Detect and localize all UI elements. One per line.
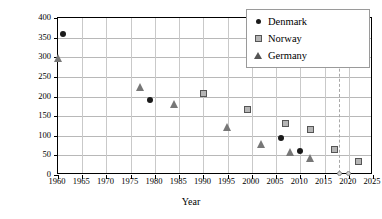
gridline-x-1985 [179,18,180,173]
y-tick-label-50: 50 [25,149,51,159]
gridline-x-1975 [131,18,132,173]
data-point-germany-2018 [337,171,342,176]
data-point-norway-1990 [200,90,207,97]
data-point-germany-2002 [257,140,265,148]
x-axis-title: Year [0,196,382,207]
y-tick-label-350: 350 [25,32,51,42]
y-tick-label-300: 300 [25,51,51,61]
x-tick-2005 [276,175,277,179]
legend-label: Denmark [268,16,307,27]
data-point-denmark-2010 [297,148,303,154]
legend-label: Norway [268,33,302,44]
x-tick-1990 [203,175,204,179]
x-tick-2025 [373,175,374,179]
y-tick-0 [54,175,58,176]
y-tick-label-100: 100 [25,130,51,140]
legend-marker-glyph [256,19,261,24]
data-point-germany-1977 [136,83,144,91]
x-tick-label-2025: 2025 [352,176,382,186]
legend-marker-glyph [255,35,262,42]
data-point-germany-2008 [286,148,294,156]
data-point-germany-1995 [223,123,231,131]
x-tick-1965 [82,175,83,179]
gridline-x-1995 [228,18,229,173]
x-tick-1970 [106,175,107,179]
data-point-denmark-1979 [147,97,153,103]
y-tick-label-200: 200 [25,91,51,101]
y-tick-400 [54,18,58,19]
data-point-germany-1984 [170,100,178,108]
x-tick-2015 [325,175,326,179]
y-axis-title-line2: kWh/m2a [8,0,21,28]
y-tick-150 [54,116,58,117]
data-point-norway-2007 [282,120,289,127]
data-point-norway-2012 [307,126,314,133]
legend-marker-glyph [254,52,262,59]
legend-marker-filled-circle-icon [252,19,264,24]
data-point-norway-2017 [331,146,338,153]
legend-item-norway[interactable]: Norway [252,30,365,47]
chart-figure: Max energy consumption kWh/m2a 050100150… [0,0,382,219]
legend-marker-gray-square-icon [252,35,264,42]
x-tick-1975 [131,175,132,179]
data-point-norway-1999 [244,106,251,113]
x-tick-1995 [228,175,229,179]
x-tick-2010 [300,175,301,179]
data-point-denmark-2006 [278,135,284,141]
gridline-x-1970 [106,18,107,173]
legend-marker-gray-triangle-icon [252,52,264,59]
y-tick-label-250: 250 [25,71,51,81]
x-tick-1985 [179,175,180,179]
y-tick-label-400: 400 [25,12,51,22]
chart-legend: DenmarkNorwayGermany [246,9,370,68]
y-tick-label-150: 150 [25,110,51,120]
data-point-denmark-1961 [60,31,66,37]
y-tick-50 [54,155,58,156]
legend-label: Germany [268,50,307,61]
x-tick-1960 [58,175,59,179]
x-tick-2000 [252,175,253,179]
data-point-norway-2022 [355,158,362,165]
x-tick-1980 [155,175,156,179]
y-tick-250 [54,77,58,78]
legend-item-denmark[interactable]: Denmark [252,13,365,30]
gridline-x-1980 [155,18,156,173]
data-point-germany-2012 [306,154,314,162]
data-point-germany-1960 [54,54,62,62]
y-tick-350 [54,38,58,39]
gridline-x-1965 [82,18,83,173]
legend-item-germany[interactable]: Germany [252,47,365,64]
y-axis-title: Max energy consumption kWh/m2a [0,0,21,28]
y-tick-100 [54,136,58,137]
y-tick-200 [54,97,58,98]
